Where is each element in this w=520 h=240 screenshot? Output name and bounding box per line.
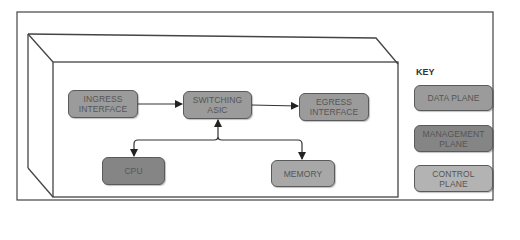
edge-bus-memory	[218, 137, 302, 159]
memory-node: MEMORY	[271, 160, 335, 187]
key-data-plane: DATA PLANE	[414, 85, 493, 111]
edge-switching-egress	[251, 105, 298, 106]
key-title: KEY	[416, 67, 435, 77]
cpu-node: CPU	[102, 157, 165, 185]
key-management-plane-label: MANAGEMENT PLANE	[423, 129, 485, 149]
switching-asic-label: SWITCHING ASIC	[193, 95, 243, 115]
egress-interface-node: EGRESS INTERFACE	[299, 93, 369, 121]
key-control-plane: CONTROL PLANE	[414, 165, 493, 192]
ingress-interface-label: INGRESS INTERFACE	[79, 94, 128, 114]
memory-label: MEMORY	[284, 169, 323, 179]
key-control-plane-label: CONTROL PLANE	[432, 169, 474, 189]
key-data-plane-label: DATA PLANE	[427, 93, 479, 103]
cpu-label: CPU	[124, 166, 142, 176]
key-management-plane: MANAGEMENT PLANE	[414, 125, 493, 152]
egress-interface-label: EGRESS INTERFACE	[310, 97, 359, 117]
switching-asic-node: SWITCHING ASIC	[183, 91, 252, 119]
ingress-interface-node: INGRESS INTERFACE	[68, 90, 138, 118]
edge-bus-cpu	[134, 137, 218, 156]
